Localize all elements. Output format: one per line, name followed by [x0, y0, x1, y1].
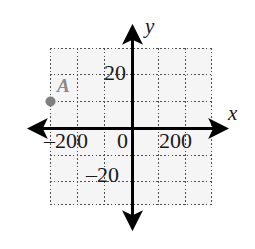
coordinate-plane-svg — [0, 0, 255, 249]
coordinate-plane-figure: –200 0 200 20 –20 y x A — [0, 0, 255, 249]
data-point-a — [46, 97, 55, 106]
x-tick-label-200: 200 — [159, 130, 192, 152]
data-point-label-a: A — [57, 76, 70, 95]
y-tick-label-20: 20 — [104, 62, 126, 84]
x-tick-label-negative-200: –200 — [44, 130, 88, 152]
x-axis-label: x — [228, 103, 237, 124]
y-axis-label: y — [145, 16, 154, 37]
y-tick-label-negative-20: –20 — [86, 164, 119, 186]
origin-label: 0 — [117, 130, 128, 152]
